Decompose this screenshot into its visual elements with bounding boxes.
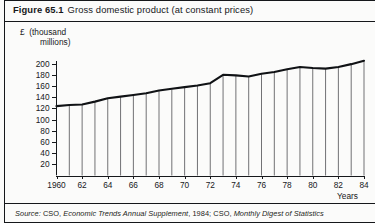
y-tick-label: 140 [24, 92, 50, 102]
y-tick-label: 160 [24, 81, 50, 91]
figure-page: Figure 65.1Gross domestic product (at co… [0, 0, 375, 223]
x-tick-label: 78 [283, 180, 292, 190]
y-tick-label: 80 [24, 126, 50, 136]
x-tick-mark [313, 177, 314, 180]
y-tick-mark [52, 64, 56, 65]
y-tick-label: 200 [24, 59, 50, 69]
x-tick-label: 66 [129, 180, 138, 190]
y-tick-label: 40 [24, 148, 50, 158]
spike-group [57, 61, 365, 175]
y-tick-label: 60 [24, 137, 50, 147]
x-tick-mark [262, 177, 263, 180]
x-tick-label: 84 [359, 180, 368, 190]
y-tick-mark [52, 108, 56, 109]
y-tick-mark [52, 131, 56, 132]
source-note: Source: CSO, Economic Trends Annual Supp… [15, 209, 324, 218]
x-axis-title: Years [337, 191, 358, 201]
x-tick-label: 68 [154, 180, 163, 190]
x-tick-mark [287, 177, 288, 180]
source-prefix: Source: [15, 209, 41, 218]
x-tick-label: 82 [334, 180, 343, 190]
y-tick-mark [52, 153, 56, 154]
x-tick-mark [108, 177, 109, 180]
x-tick-mark [210, 177, 211, 180]
x-tick-label: 62 [78, 180, 87, 190]
source-italic-1: Economic Trends Annual Supplement [63, 209, 188, 218]
gdp-chart: £ (thousand millions) 204060801001201401… [0, 0, 375, 205]
x-tick-label: 64 [103, 180, 112, 190]
y-tick-mark [52, 120, 56, 121]
x-tick-mark [236, 177, 237, 180]
y-tick-mark [52, 75, 56, 76]
x-tick-mark [185, 177, 186, 180]
x-tick-mark [57, 177, 58, 180]
y-tick-mark [52, 86, 56, 87]
x-tick-label: 76 [257, 180, 266, 190]
y-tick-mark [52, 97, 56, 98]
x-tick-mark [159, 177, 160, 180]
x-tick-mark [338, 177, 339, 180]
x-tick-label: 80 [308, 180, 317, 190]
source-text-1: CSO, [41, 209, 63, 218]
y-tick-label: 120 [24, 103, 50, 113]
source-text-2: , 1984; CSO, [188, 209, 233, 218]
x-tick-label: 70 [180, 180, 189, 190]
rule-bottom [4, 222, 375, 223]
x-tick-label: 72 [206, 180, 215, 190]
y-tick-label: 100 [24, 115, 50, 125]
y-tick-label: 180 [24, 70, 50, 80]
source-italic-2: Monthly Digest of Statistics [234, 209, 324, 218]
x-tick-mark [364, 177, 365, 180]
y-tick-mark [52, 142, 56, 143]
x-tick-label: 74 [231, 180, 240, 190]
x-tick-mark [133, 177, 134, 180]
x-tick-mark [82, 177, 83, 180]
y-tick-mark [52, 164, 56, 165]
y-axis-line [56, 61, 57, 176]
y-tick-label: 20 [24, 159, 50, 169]
x-tick-label: 1960 [47, 180, 65, 190]
